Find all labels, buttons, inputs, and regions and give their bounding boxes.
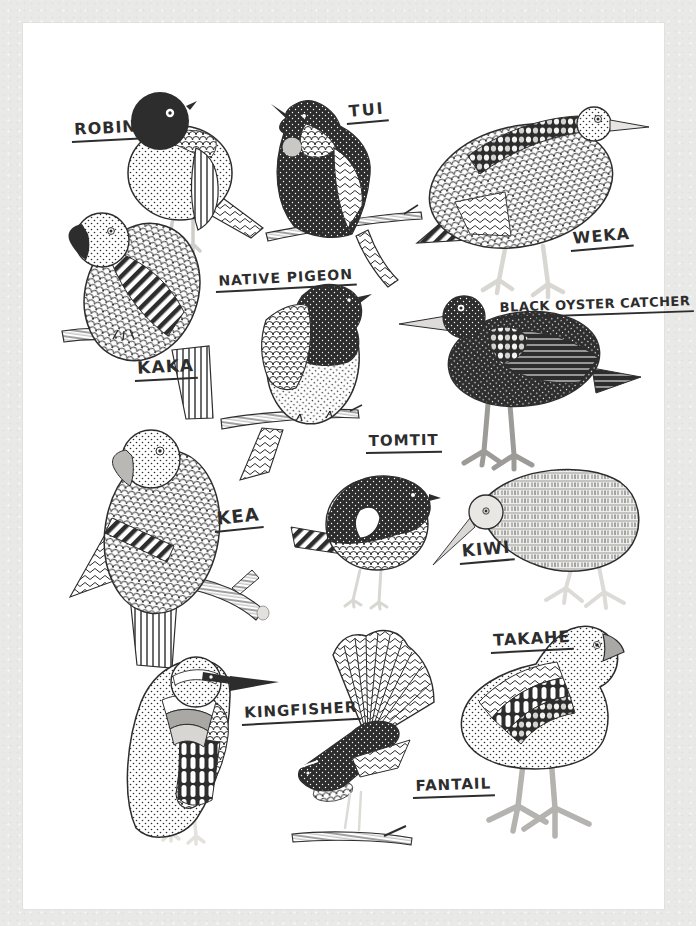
- kingfisher-eye: [209, 675, 212, 678]
- tui-eye: [302, 114, 306, 118]
- weka-head: [577, 107, 611, 141]
- kingfisher-wing-fringe: [178, 736, 220, 805]
- oystercatcher-legs: [464, 404, 532, 469]
- label-tui: TUI: [345, 100, 389, 124]
- label-tomtit: TOMTIT: [366, 433, 442, 454]
- label-fantail: FANTAIL: [412, 776, 494, 799]
- label-kaka: KAKA: [134, 357, 198, 382]
- fantail-twig: [292, 832, 412, 845]
- tui-tail: [356, 230, 398, 287]
- native-pigeon-drawing: [221, 284, 372, 480]
- robin-head: [131, 92, 189, 150]
- fantail-eye: [306, 771, 309, 774]
- tui-drawing: [266, 101, 422, 288]
- oystercatcher-tail: [592, 368, 641, 393]
- pigeon-tail: [240, 428, 283, 480]
- tomtit-legs: [345, 569, 387, 609]
- tui-throat-tuft: [283, 138, 302, 157]
- kea-drawing: [70, 430, 269, 668]
- kingfisher-drawing: [127, 657, 279, 844]
- label-robin: ROBIN: [71, 118, 140, 142]
- oystercatcher-head: [443, 296, 485, 338]
- label-takahe: TAKAHE: [490, 629, 574, 654]
- fantail-drawing: [292, 631, 434, 845]
- tomtit-beak: [429, 494, 441, 501]
- fantail-legs: [345, 792, 361, 830]
- weka-beak: [610, 120, 649, 131]
- kaka-drawing: [62, 207, 219, 419]
- takahe-beak: [603, 634, 624, 661]
- kea-beak: [113, 450, 134, 486]
- kiwi-drawing: [433, 469, 639, 608]
- robin-beak: [186, 101, 197, 110]
- takahe-drawing: [461, 626, 624, 836]
- framed-bird-print: ROBIN TUI WEKA KAKA NATIVE PIGEON BLACK …: [0, 0, 696, 926]
- tomtit-drawing: [291, 476, 441, 609]
- kea-branch-end: [257, 606, 269, 620]
- kingfisher-beak: [230, 676, 279, 691]
- kea-branch: [194, 578, 264, 620]
- pigeon-beak: [358, 294, 372, 303]
- tomtit-eye: [411, 493, 415, 497]
- weka-legs: [483, 244, 563, 297]
- pigeon-eye: [347, 298, 351, 302]
- weka-drawing: [417, 107, 649, 297]
